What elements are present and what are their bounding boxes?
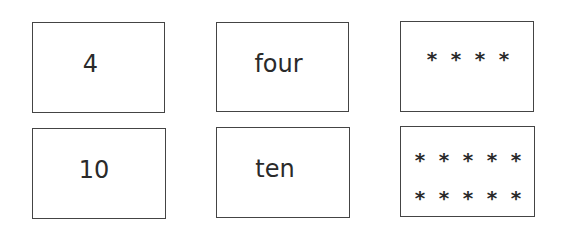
card-word-ten: ten [216, 127, 350, 218]
card-stars-ten: * * * * * * * * * * [400, 126, 535, 217]
card-numeral-ten: 10 [32, 128, 166, 219]
star-icon: * [448, 49, 464, 69]
star-icon: * [460, 150, 476, 170]
star-icon: * [436, 188, 452, 208]
star-icon: * [472, 49, 488, 69]
star-icon: * [436, 150, 452, 170]
star-icon: * [496, 49, 512, 69]
star-icon: * [424, 49, 440, 69]
card-stars-four: * * * * [400, 21, 534, 112]
star-icon: * [412, 150, 428, 170]
word-ten: ten [201, 157, 349, 181]
star-icon: * [412, 188, 428, 208]
word-four: four [209, 52, 348, 76]
star-icon: * [508, 188, 524, 208]
numeral-four: 4 [17, 52, 164, 76]
star-icon: * [484, 150, 500, 170]
card-numeral-four: 4 [32, 22, 165, 113]
card-word-four: four [216, 22, 349, 112]
star-icon: * [460, 188, 476, 208]
star-icon: * [508, 150, 524, 170]
numeral-ten: 10 [23, 158, 165, 182]
star-icon: * [484, 188, 500, 208]
